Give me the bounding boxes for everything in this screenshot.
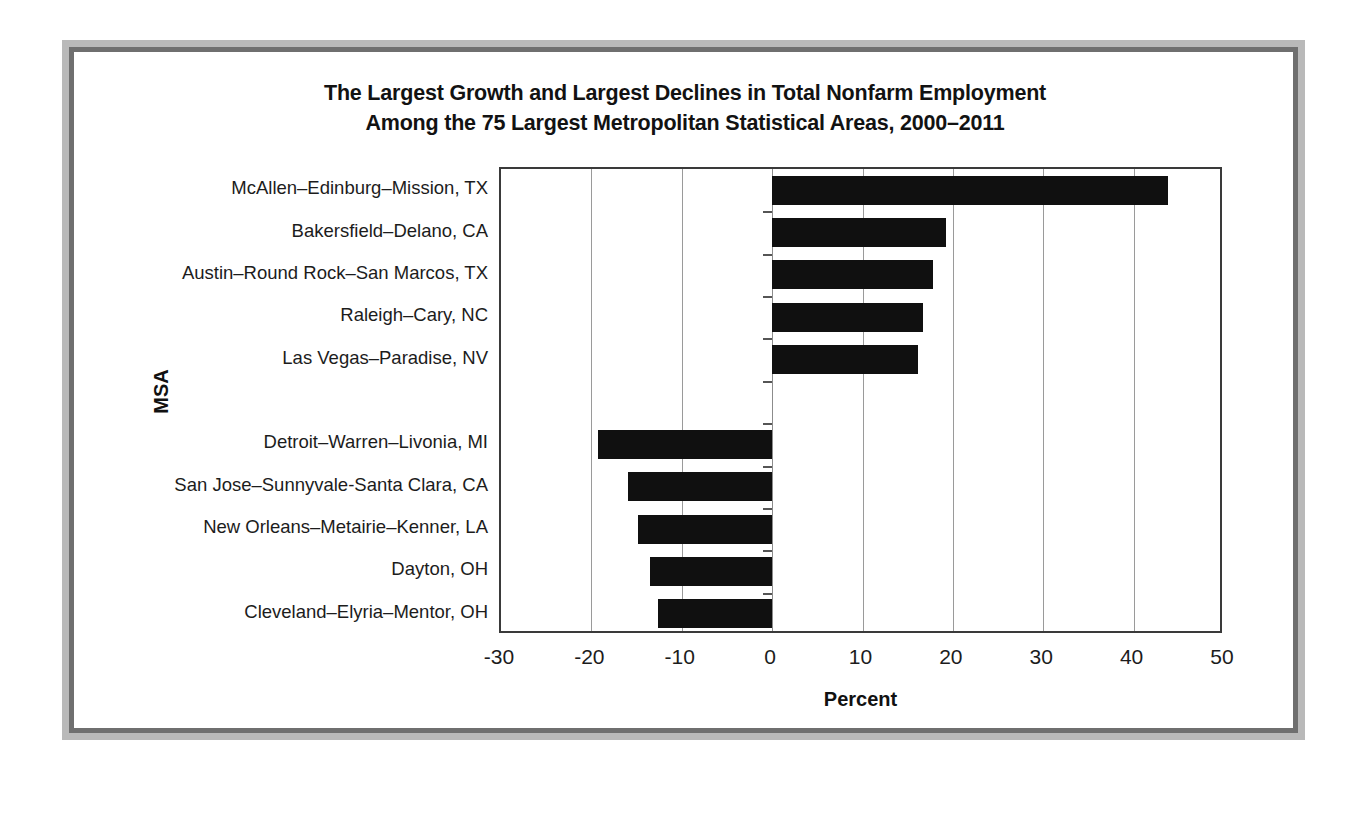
x-axis-tick-label: 10 bbox=[821, 645, 901, 669]
x-axis-title: Percent bbox=[499, 688, 1222, 711]
y-axis-label: Cleveland–Elyria–Mentor, OH bbox=[60, 602, 488, 622]
x-axis-tick-label: 30 bbox=[1001, 645, 1081, 669]
y-axis-label: San Jose–Sunnyvale-Santa Clara, CA bbox=[60, 475, 488, 495]
x-axis-tick-label: 0 bbox=[730, 645, 810, 669]
y-axis-label: Austin–Round Rock–San Marcos, TX bbox=[60, 263, 488, 283]
chart-page: The Largest Growth and Largest Declines … bbox=[0, 0, 1367, 822]
category-tick bbox=[763, 211, 772, 213]
category-tick bbox=[763, 508, 772, 510]
y-axis-label: New Orleans–Metairie–Kenner, LA bbox=[60, 517, 488, 537]
x-axis-tick-label: -30 bbox=[459, 645, 539, 669]
y-axis-label: Dayton, OH bbox=[60, 559, 488, 579]
category-tick bbox=[763, 593, 772, 595]
y-axis-title: MSA bbox=[150, 352, 173, 432]
chart-area: McAllen–Edinburg–Mission, TXBakersfield–… bbox=[0, 0, 1367, 822]
x-axis-tick-labels: -30-20-1001020304050 bbox=[0, 645, 1367, 675]
category-tick bbox=[763, 550, 772, 552]
x-axis-tick-label: -10 bbox=[640, 645, 720, 669]
x-axis-tick-label: 50 bbox=[1182, 645, 1262, 669]
plot-area bbox=[499, 167, 1222, 633]
y-axis-label: Detroit–Warren–Livonia, MI bbox=[60, 432, 488, 452]
y-axis-label: Raleigh–Cary, NC bbox=[60, 305, 488, 325]
x-axis-tick-label: 40 bbox=[1092, 645, 1172, 669]
category-tick bbox=[763, 423, 772, 425]
y-axis-label: Las Vegas–Paradise, NV bbox=[60, 348, 488, 368]
x-axis-tick-label: -20 bbox=[549, 645, 629, 669]
category-tick bbox=[763, 338, 772, 340]
y-axis-category-labels: McAllen–Edinburg–Mission, TXBakersfield–… bbox=[60, 167, 488, 633]
category-tick bbox=[763, 296, 772, 298]
category-tick bbox=[763, 466, 772, 468]
category-tick bbox=[763, 254, 772, 256]
y-axis-label: McAllen–Edinburg–Mission, TX bbox=[60, 178, 488, 198]
x-axis-tick-label: 20 bbox=[911, 645, 991, 669]
category-tick bbox=[763, 381, 772, 383]
category-tick-marks bbox=[501, 169, 1220, 631]
y-axis-label: Bakersfield–Delano, CA bbox=[60, 221, 488, 241]
